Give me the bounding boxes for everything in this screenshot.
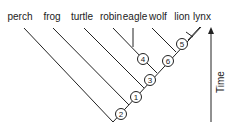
lynx-branch [188,27,200,40]
node-4: 4 [141,55,146,64]
label-perch: perch [7,11,32,22]
node-6: 6 [166,57,171,66]
time-axis-label: Time [215,71,226,93]
node-5: 5 [180,40,185,49]
arrow-head-icon [208,27,214,34]
cladogram-svg: 2 1 3 4 6 5 perch frog turtle robin eagl… [0,0,233,134]
label-lion: lion [174,11,190,22]
node-2: 2 [119,110,124,119]
node-numbers: 2 1 3 4 6 5 [119,40,185,119]
label-lynx: lynx [193,11,211,22]
label-eagle: eagle [123,11,148,22]
label-wolf: wolf [148,11,167,22]
cladogram: 2 1 3 4 6 5 perch frog turtle robin eagl… [0,0,233,134]
label-frog: frog [43,11,60,22]
node-1: 1 [134,93,139,102]
label-turtle: turtle [71,11,94,22]
label-robin: robin [100,11,122,22]
node-3: 3 [148,76,153,85]
taxa-labels: perch frog turtle robin eagle wolf lion … [7,11,210,22]
